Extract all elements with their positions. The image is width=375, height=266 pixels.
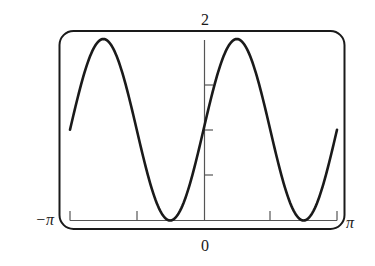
x-min-label: −π bbox=[35, 211, 55, 228]
x-zero-label: 0 bbox=[201, 237, 209, 254]
sine-curve bbox=[70, 39, 337, 221]
x-max-label: π bbox=[346, 214, 355, 231]
chart: 2 0 −π π bbox=[0, 0, 375, 266]
y-max-label: 2 bbox=[201, 11, 209, 28]
plot-frame bbox=[60, 31, 345, 229]
